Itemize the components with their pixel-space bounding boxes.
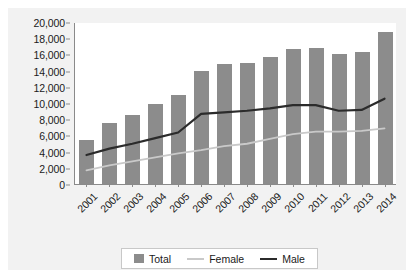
bar [217, 64, 231, 184]
y-tick-mark [66, 23, 70, 24]
bar [309, 48, 323, 184]
x-tick-mark [270, 183, 271, 187]
y-tick-label: 20,000 [33, 17, 65, 29]
x-tick-mark [316, 183, 317, 187]
x-tick-label: 2003 [120, 190, 145, 215]
y-axis: 02,0004,0006,0008,00010,00012,00014,0001… [16, 23, 70, 185]
y-tick-label: 8,000 [39, 114, 65, 126]
bars-layer [75, 23, 396, 184]
x-tick-mark [109, 183, 110, 187]
bar [332, 54, 346, 184]
y-tick-label: 6,000 [39, 130, 65, 142]
y-tick-mark [66, 55, 70, 56]
y-tick-mark [66, 185, 70, 186]
x-tick-label: 2011 [305, 190, 329, 214]
x-tick-mark [132, 183, 133, 187]
x-tick-mark [178, 183, 179, 187]
bar [79, 140, 93, 184]
y-tick-label: 10,000 [33, 98, 65, 110]
legend-label: Male [282, 253, 305, 265]
legend-label: Total [149, 253, 171, 265]
legend-label: Female [209, 253, 244, 265]
x-tick-mark [155, 183, 156, 187]
legend-swatch-line-icon [187, 258, 204, 260]
y-tick-label: 2,000 [39, 163, 65, 175]
x-tick-label: 2001 [74, 190, 99, 215]
x-tick-mark [339, 183, 340, 187]
x-tick-mark [385, 183, 386, 187]
chart-canvas: 02,0004,0006,0008,00010,00012,00014,0001… [8, 8, 406, 270]
x-tick-label: 2004 [143, 190, 168, 215]
y-tick-mark [66, 39, 70, 40]
x-tick-label: 2006 [189, 190, 214, 215]
y-tick-mark [66, 120, 70, 121]
y-tick-mark [66, 168, 70, 169]
bar [240, 63, 254, 185]
x-tick-mark [86, 183, 87, 187]
bar [194, 71, 208, 184]
chart-figure: 02,0004,0006,0008,00010,00012,00014,0001… [0, 0, 414, 278]
y-tick-label: 14,000 [33, 66, 65, 78]
bar [378, 32, 392, 184]
legend-item-total[interactable]: Total [134, 253, 171, 265]
bar [125, 115, 139, 184]
chart-legend: TotalFemaleMale [121, 248, 318, 269]
y-tick-label: 18,000 [33, 33, 65, 45]
y-tick-label: 4,000 [39, 147, 65, 159]
x-tick-mark [362, 183, 363, 187]
x-tick-label: 2014 [373, 190, 398, 215]
x-tick-label: 2008 [235, 190, 260, 215]
x-tick-label: 2007 [212, 190, 237, 215]
x-tick-label: 2009 [258, 190, 283, 215]
x-tick-label: 2010 [281, 190, 306, 215]
legend-swatch-square-icon [134, 254, 144, 263]
y-tick-mark [66, 152, 70, 153]
y-tick-mark [66, 104, 70, 105]
x-tick-label: 2002 [97, 190, 122, 215]
x-tick-mark [247, 183, 248, 187]
x-tick-mark [224, 183, 225, 187]
plot-area [74, 23, 396, 185]
legend-item-female[interactable]: Female [187, 253, 244, 265]
bar [263, 57, 277, 184]
legend-item-male[interactable]: Male [260, 253, 305, 265]
x-tick-mark [293, 183, 294, 187]
bar [286, 49, 300, 184]
legend-swatch-line-icon [260, 258, 277, 260]
x-tick-label: 2012 [327, 190, 352, 215]
y-tick-label: 0 [59, 179, 65, 191]
x-tick-mark [201, 183, 202, 187]
y-tick-label: 12,000 [33, 82, 65, 94]
bar [148, 104, 162, 184]
x-tick-label: 2013 [350, 190, 375, 215]
y-tick-mark [66, 71, 70, 72]
x-tick-label: 2005 [166, 190, 191, 215]
y-tick-label: 16,000 [33, 49, 65, 61]
y-tick-mark [66, 136, 70, 137]
bar [102, 123, 116, 184]
bar [171, 95, 185, 184]
y-tick-mark [66, 87, 70, 88]
x-axis: 2001200220032004200520062007200820092010… [74, 187, 396, 233]
bar [355, 52, 369, 184]
